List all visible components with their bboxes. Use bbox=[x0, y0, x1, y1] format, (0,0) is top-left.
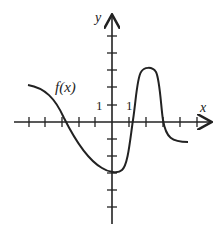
y-axis-label: y bbox=[93, 10, 102, 25]
function-label: f(x) bbox=[55, 79, 76, 96]
y-one-label: 1 bbox=[96, 98, 103, 113]
x-one-label: 1 bbox=[126, 98, 133, 113]
x-axis-label: x bbox=[199, 100, 207, 115]
function-graph: y x f(x) 1 1 bbox=[0, 0, 223, 239]
